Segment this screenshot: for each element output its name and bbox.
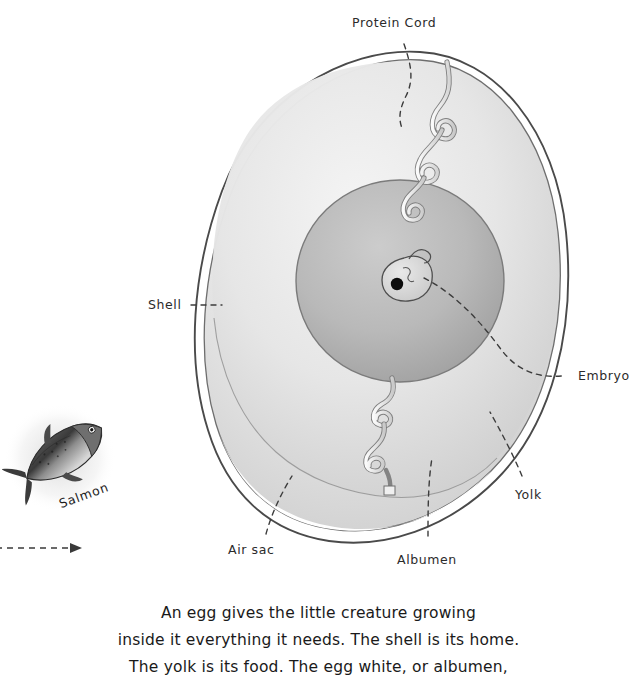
body-text: An egg gives the little creature growing… — [0, 600, 637, 681]
body-line-1: An egg gives the little creature growing — [0, 600, 637, 627]
body-line-3: The yolk is its food. The egg white, or … — [0, 654, 637, 681]
page-root: Protein Cord Shell Embryo Yolk Air sac A… — [0, 0, 637, 686]
body-line-2: inside it everything it needs. The shell… — [0, 627, 637, 654]
salmon-pointer-line — [0, 0, 637, 686]
